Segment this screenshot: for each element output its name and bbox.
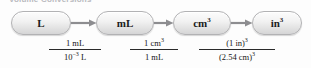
conversion-factor-1-numerator: 1 mL (63, 38, 87, 49)
conversion-factor-3-rule (199, 49, 275, 50)
unit-box-milliliter[interactable]: mL (96, 11, 154, 35)
unit-box-cubic-inch-label: in3 (271, 18, 284, 29)
unit-box-cubic-inch[interactable]: in3 (252, 11, 302, 35)
conversion-factor-liter-to-milliliter: 1 mL 10−3 L (49, 38, 101, 62)
unit-box-liter-label: L (37, 18, 44, 29)
conversion-factor-2-rule (130, 49, 178, 50)
arrow-milliliter-to-cubic-centimeter-icon (154, 19, 174, 27)
arrow-liter-to-milliliter-icon (71, 19, 97, 27)
unit-box-cubic-centimeter-label: cm3 (193, 18, 211, 29)
conversion-factor-milliliter-to-cubic-centimeter: 1 cm3 1 mL (130, 38, 178, 62)
conversion-chain: L mL cm3 (0, 11, 311, 36)
conversion-factor-cubic-centimeter-to-cubic-inch: (1 in)3 (2.54 cm)3 (199, 38, 275, 62)
unit-box-milliliter-label: mL (117, 18, 134, 29)
conversion-factor-1-denominator: 10−3 L (61, 51, 89, 62)
clipped-heading-fragment: Volume Conversions (9, 0, 159, 2)
arrow-cubic-centimeter-to-cubic-inch-icon (231, 19, 253, 27)
unit-box-cubic-centimeter[interactable]: cm3 (173, 11, 231, 35)
conversion-factor-3-denominator: (2.54 cm)3 (216, 51, 258, 62)
conversion-factor-2-denominator: 1 mL (142, 51, 166, 62)
unit-conversion-diagram: Volume Conversions L mL cm3 (0, 0, 311, 68)
unit-box-liter[interactable]: L (11, 11, 71, 35)
conversion-factor-3-numerator: (1 in)3 (223, 38, 251, 49)
conversion-factor-2-numerator: 1 cm3 (141, 38, 167, 49)
